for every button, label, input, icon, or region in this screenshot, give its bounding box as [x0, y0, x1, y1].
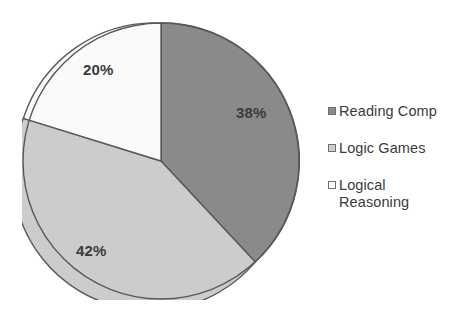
legend-label-line1: Logical [339, 177, 386, 193]
pie-svg [22, 22, 300, 300]
chart-legend: Reading Comp Logic Games Logical Reasoni… [328, 103, 452, 211]
legend-label-reading-comp: Reading Comp [339, 103, 437, 120]
pie-chart-plot-area [22, 22, 300, 300]
legend-swatch-icon-logic-games [328, 144, 336, 152]
legend-swatch-icon-logical-reasoning [328, 181, 336, 189]
slice-value-label-logic-games: 42% [76, 242, 107, 259]
legend-item-reading-comp[interactable]: Reading Comp [328, 103, 452, 120]
slice-value-label-logical-reasoning: 20% [83, 61, 114, 78]
legend-label-logical-reasoning: Logical Reasoning [339, 177, 409, 211]
legend-swatch-icon-reading-comp [328, 107, 336, 115]
pie-chart-figure: 38% 42% 20% Reading Comp Logic Games Log… [0, 0, 454, 318]
slice-value-label-reading-comp: 38% [236, 104, 267, 121]
legend-label-logic-games: Logic Games [339, 140, 426, 157]
legend-item-logic-games[interactable]: Logic Games [328, 140, 452, 157]
legend-label-line2: Reasoning [339, 194, 409, 211]
legend-item-logical-reasoning[interactable]: Logical Reasoning [328, 177, 452, 211]
legend-label-line1: Reading Comp [339, 103, 437, 119]
legend-label-line1: Logic Games [339, 140, 426, 156]
